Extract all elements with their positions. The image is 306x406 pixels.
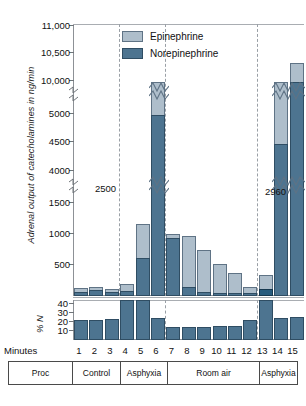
- y-axis-title: Adrenal output of catecholamines in ng/m…: [26, 30, 36, 280]
- x-axis-title: Minutes: [4, 345, 37, 356]
- percent-n-plot: [73, 300, 304, 340]
- ytick-label-500: 500: [12, 259, 70, 270]
- bar-minute-5-norepinephrine: [136, 258, 150, 296]
- percent-bar-minute-12: [243, 320, 257, 340]
- proc-cell-control: Control: [73, 362, 121, 384]
- xtick-5: 5: [133, 345, 149, 356]
- annotation-2500: 2500: [95, 183, 116, 194]
- chart-legend: Epinephrine Norepinephrine: [122, 28, 218, 62]
- bar-minute-7-norepinephrine: [166, 238, 180, 296]
- bar-minute-10-epinephrine: [213, 264, 227, 296]
- legend-item-norepinephrine: Norepinephrine: [122, 45, 218, 61]
- bar-minute-10: [213, 264, 227, 296]
- ytick-label-5000: 5000: [12, 108, 70, 119]
- bar-minute-6-norepinephrine: [151, 115, 165, 296]
- bar-minute-2: [89, 287, 103, 296]
- bar-minute-9-norepinephrine: [197, 292, 211, 296]
- bar-minute-14-norepinephrine: [274, 144, 288, 296]
- bar-minute-1-norepinephrine: [74, 292, 88, 296]
- percent-bar-minute-10: [213, 326, 227, 340]
- legend-swatch-norepinephrine: [122, 48, 143, 59]
- catecholamine-plot: [73, 24, 304, 296]
- bar-minute-7: [166, 234, 180, 296]
- proc-cell-asphyxia-1: Asphyxia: [121, 362, 168, 384]
- chart-root: Adrenal output of catecholamines in ng/m…: [0, 0, 306, 406]
- xtick-6: 6: [148, 345, 164, 356]
- bar-minute-15-norepinephrine: [290, 82, 304, 296]
- xtick-12: 12: [239, 345, 255, 356]
- bar-minute-8: [182, 236, 196, 296]
- xtick-13: 13: [254, 345, 270, 356]
- xtick-15: 15: [285, 345, 301, 356]
- xtick-7: 7: [163, 345, 179, 356]
- bar-minute-15: [290, 63, 304, 296]
- legend-swatch-epinephrine: [122, 31, 143, 42]
- bar-minute-12-norepinephrine: [243, 293, 257, 296]
- percent-bar-minute-14: [274, 318, 288, 340]
- bar-minute-11: [228, 273, 242, 296]
- plot-top-border: [73, 24, 304, 25]
- percent-bar-minute-15: [290, 317, 304, 340]
- ytick-label-4000: 4000: [12, 165, 70, 176]
- bar-minute-10-norepinephrine: [213, 293, 227, 296]
- bar-minute-4-norepinephrine: [120, 291, 134, 296]
- bar-minute-4: [120, 284, 134, 296]
- bar-minute-13: [259, 275, 273, 296]
- xtick-11: 11: [223, 345, 239, 356]
- group-divider-roomair-asphyxia: [257, 24, 258, 296]
- xtick-10: 10: [209, 345, 225, 356]
- proc-cell-room-air: Room air: [168, 362, 260, 384]
- bar-minute-3-norepinephrine: [105, 292, 119, 296]
- bar-minute-5: [136, 224, 150, 296]
- ytick-label-1000: 1000: [12, 228, 70, 239]
- bar-minute-1: [74, 288, 88, 296]
- ytick-label-11000: 11,000: [12, 20, 70, 31]
- bar-minute-11-norepinephrine: [228, 293, 242, 296]
- percent-tick-30: [69, 312, 74, 313]
- legend-item-epinephrine: Epinephrine: [122, 28, 218, 44]
- bar-minute-12: [243, 287, 257, 296]
- percent-n-axis-title: % N: [34, 315, 45, 333]
- percent-bar-minute-3: [105, 319, 119, 340]
- bar-minute-8-norepinephrine: [182, 287, 196, 296]
- xtick-8: 8: [179, 345, 195, 356]
- plot-separator-top: [73, 297, 304, 298]
- percent-bar-minute-7: [166, 327, 180, 340]
- percent-bar-minute-1: [74, 320, 88, 340]
- percent-bar-minute-6: [151, 318, 165, 340]
- group-divider-control-asphyxia: [119, 24, 120, 296]
- xtick-1: 1: [71, 345, 87, 356]
- xtick-4: 4: [117, 345, 133, 356]
- ytick-label-10000: 10,000: [12, 75, 70, 86]
- percent-bar-minute-11: [228, 326, 242, 340]
- legend-label-epinephrine: Epinephrine: [150, 31, 203, 42]
- xtick-2: 2: [86, 345, 102, 356]
- legend-label-norepinephrine: Norepinephrine: [150, 48, 218, 59]
- y-axis-line: [73, 24, 74, 296]
- ytick-label-10500: 10,500: [12, 47, 70, 58]
- percent-bar-minute-9: [197, 327, 211, 340]
- bar-minute-3: [105, 289, 119, 296]
- bar-minute-13-norepinephrine: [259, 289, 273, 296]
- percent-bar-minute-13: [259, 300, 273, 340]
- xtick-14: 14: [269, 345, 285, 356]
- percent-tick-40: [69, 303, 74, 304]
- procedure-table: Proc Control Asphyxia Room air Asphyxia: [8, 361, 298, 385]
- bar-minute-6: [151, 82, 165, 296]
- annotation-2960: 2960: [265, 186, 286, 197]
- ytick-label-4500: 4500: [12, 136, 70, 147]
- bar-minute-9: [197, 250, 211, 296]
- bar-minute-2-norepinephrine: [89, 290, 103, 296]
- percent-bar-minute-4: [120, 300, 134, 340]
- percent-bar-minute-8: [182, 327, 196, 340]
- proc-cell-proc: Proc: [9, 362, 73, 384]
- percent-bar-minute-5: [136, 300, 150, 340]
- percent-bar-minute-2: [89, 320, 103, 340]
- xtick-3: 3: [102, 345, 118, 356]
- proc-cell-asphyxia-2: Asphyxia: [260, 362, 297, 384]
- ytick-label-1500: 1500: [12, 197, 70, 208]
- bar-minute-9-epinephrine: [197, 250, 211, 296]
